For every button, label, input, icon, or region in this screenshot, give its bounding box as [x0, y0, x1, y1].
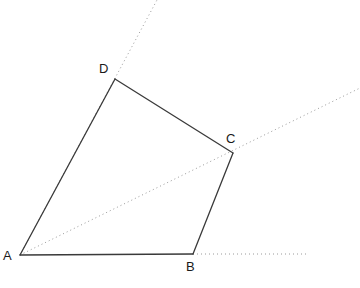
geometry-canvas: [0, 0, 360, 288]
ray-AC-extended: [20, 88, 360, 255]
dotted-rays-group: [20, 0, 360, 255]
vertex-label-A: A: [3, 249, 12, 262]
edge-BC: [193, 153, 233, 254]
geometry-figure: A B C D: [0, 0, 360, 288]
edge-AB: [20, 254, 193, 255]
edge-CD: [115, 79, 233, 153]
solid-edges-group: [20, 79, 233, 255]
vertex-label-B: B: [186, 260, 195, 273]
vertex-label-D: D: [99, 62, 108, 75]
vertex-label-C: C: [226, 132, 235, 145]
edge-DA: [20, 79, 115, 255]
